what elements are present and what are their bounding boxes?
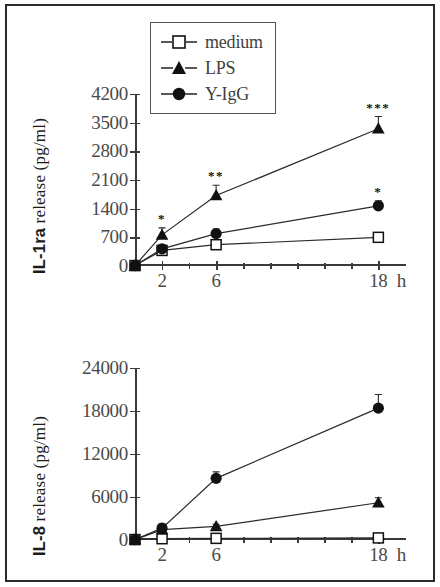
x-axis-unit-il1ra: h [397, 270, 406, 292]
series-line [135, 129, 378, 266]
legend-box: medium LPS [150, 22, 276, 114]
plot-area-il1ra: 070014002100280035004200 02618h ******* [135, 94, 400, 266]
x-tick-label-il8-2: 6 [212, 544, 221, 566]
figure-root: IL-1ra release (pg/ml) 07001400210028003… [0, 0, 440, 587]
y-tick-label-il1ra-5: 3500 [91, 112, 128, 134]
legend-marker-open-square-icon [159, 33, 199, 51]
data-point-open-square [157, 534, 167, 544]
series-y-igg [129, 200, 384, 271]
y-tick-label-il8-2: 12000 [82, 443, 128, 465]
data-point-filled-circle [211, 228, 222, 239]
y-tick-label-il8-0: 0 [119, 529, 128, 551]
y-axis-title-il1ra: IL-1ra release (pg/ml) [30, 118, 50, 274]
data-point-filled-triangle [156, 228, 169, 239]
y-tick-label-il8-4: 24000 [82, 357, 128, 379]
y-tick-label-il8-1: 6000 [91, 486, 128, 508]
y-tick-label-il1ra-3: 2100 [91, 169, 128, 191]
legend-item-lps[interactable]: LPS [159, 55, 263, 81]
data-point-filled-circle [211, 473, 222, 484]
legend-marker-filled-circle-icon [159, 85, 199, 103]
legend-marker-filled-triangle-icon [159, 59, 199, 77]
series-line [135, 408, 378, 539]
y-axis-title-il8-rest: release (pg/ml) [30, 416, 49, 526]
series-y-igg [129, 395, 384, 546]
data-point-open-square [373, 232, 383, 242]
y-tick-label-il1ra-4: 2800 [91, 140, 128, 162]
x-tick-label-il1ra-1: 2 [157, 270, 166, 292]
x-axis-unit-il8: h [397, 544, 406, 566]
series-line [135, 206, 378, 266]
legend-item-medium[interactable]: medium [159, 29, 263, 55]
x-tick-label-il8-1: 2 [157, 544, 166, 566]
x-tick-label-il1ra-3: 18 [369, 270, 387, 292]
data-point-filled-circle [156, 523, 167, 534]
y-tick-label-il1ra-2: 1400 [91, 198, 128, 220]
data-point-filled-circle [129, 260, 140, 271]
y-axis-title-il8: IL-8 release (pg/ml) [30, 416, 50, 556]
y-tick-label-il1ra-0: 0 [119, 255, 128, 277]
series-layer-il1ra [135, 94, 400, 266]
legend-label-lps: LPS [205, 58, 235, 79]
panel-il1ra: IL-1ra release (pg/ml) 07001400210028003… [0, 6, 440, 296]
y-axis-title-il1ra-rest: release (pg/ml) [30, 118, 49, 228]
series-medium [130, 232, 383, 270]
data-point-open-square [211, 533, 221, 543]
x-tick-label-il8-3: 18 [369, 544, 387, 566]
plot-area-il8: 06000120001800024000 02618h [135, 368, 400, 540]
data-point-filled-circle [373, 200, 384, 211]
series-medium [130, 533, 383, 545]
series-line [135, 538, 378, 540]
legend-item-yigg[interactable]: Y-IgG [159, 81, 263, 107]
series-line [135, 503, 378, 540]
y-axis-title-il1ra-prefix: IL-1ra [30, 228, 48, 274]
data-point-open-square [211, 240, 221, 250]
legend-label-yigg: Y-IgG [205, 84, 249, 105]
data-point-filled-triangle [210, 189, 223, 200]
legend-label-medium: medium [205, 32, 263, 53]
data-point-filled-circle [129, 534, 140, 545]
data-point-filled-circle [373, 403, 384, 414]
significance-marker: ** [208, 169, 224, 182]
significance-marker: * [374, 185, 382, 198]
y-tick-label-il1ra-1: 700 [100, 226, 128, 248]
data-point-filled-circle [156, 243, 167, 254]
significance-marker: * [158, 212, 166, 225]
data-point-filled-triangle [372, 496, 385, 507]
data-point-open-square [373, 533, 383, 543]
series-line [135, 237, 378, 265]
y-tick-label-il1ra-6: 4200 [91, 83, 128, 105]
y-axis-title-il8-prefix: IL-8 [30, 526, 48, 556]
panel-il8: IL-8 release (pg/ml) 0600012000180002400… [0, 298, 440, 583]
series-layer-il8 [135, 368, 400, 540]
data-point-filled-triangle [372, 122, 385, 133]
x-tick-label-il1ra-2: 6 [212, 270, 221, 292]
significance-marker: *** [366, 101, 390, 114]
y-tick-label-il8-3: 18000 [82, 400, 128, 422]
